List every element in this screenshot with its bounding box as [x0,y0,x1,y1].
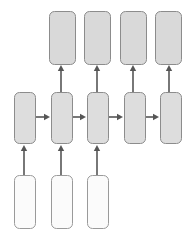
output-row [50,12,182,65]
output-arrow-1 [58,65,64,92]
input-node-1[interactable] [15,176,36,229]
input-node-2[interactable] [52,176,73,229]
input-row [15,176,109,229]
output-node-3[interactable] [121,12,147,65]
output-node-2[interactable] [85,12,111,65]
hidden-node-3[interactable] [88,93,109,144]
diagram-canvas [0,0,191,235]
output-node-4[interactable] [156,12,182,65]
output-arrow-3 [130,65,136,92]
recurrent-arrow-4 [145,114,159,120]
output-arrow-2 [94,65,100,92]
input-arrow-2 [58,145,64,175]
output-node-1[interactable] [50,12,76,65]
hidden-node-1[interactable] [15,93,36,144]
input-arrow-3 [94,145,100,175]
recurrent-arrow-3 [108,114,123,120]
recurrent-arrow-1 [35,114,50,120]
recurrent-arrow-2 [72,114,86,120]
input-arrow-1 [21,145,27,175]
input-node-3[interactable] [88,176,109,229]
output-arrow-4 [166,65,172,92]
nodes-layer [15,12,182,229]
hidden-node-4[interactable] [125,93,146,144]
sequence-model-diagram [0,0,191,235]
hidden-node-5[interactable] [161,93,182,144]
hidden-node-2[interactable] [52,93,73,144]
